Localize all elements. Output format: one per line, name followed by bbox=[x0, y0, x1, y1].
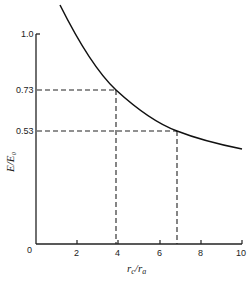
x-tick-label-6: 6 bbox=[157, 248, 162, 258]
x-tick-label-10: 10 bbox=[236, 248, 246, 258]
x-tick-label-8: 8 bbox=[198, 248, 203, 258]
x-tick-label-4: 4 bbox=[115, 248, 120, 258]
x-axis-label: rc/ra bbox=[127, 262, 146, 276]
dashed-guides bbox=[37, 90, 177, 244]
origin-label: 0 bbox=[27, 245, 32, 255]
data-curve bbox=[60, 5, 242, 149]
y-tick-label-0-73: 0.73 bbox=[16, 85, 34, 95]
y-axis-label: E/E₀ bbox=[4, 152, 16, 173]
x-tick-label-2: 2 bbox=[74, 248, 79, 258]
chart: 0 2 4 6 8 10 1.0 0.73 0.53 E/E₀ rc/ra bbox=[0, 0, 252, 281]
y-tick-label-1-0: 1.0 bbox=[21, 29, 34, 39]
y-tick-label-0-53: 0.53 bbox=[16, 126, 34, 136]
